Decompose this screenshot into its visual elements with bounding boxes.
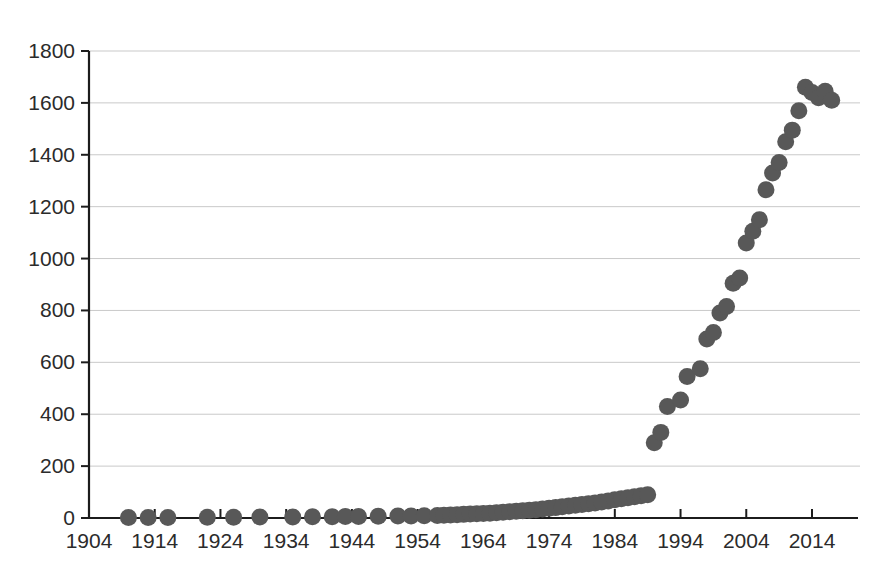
y-tick-label-1800: 1800	[28, 39, 75, 62]
y-tick-label-800: 800	[40, 298, 75, 321]
data-point	[370, 508, 387, 525]
x-tick-label-1924: 1924	[197, 529, 244, 552]
data-point	[823, 92, 840, 109]
data-point	[751, 211, 768, 228]
data-point	[705, 324, 722, 341]
data-point	[120, 509, 137, 526]
x-tick-label-2004: 2004	[723, 529, 770, 552]
x-tick-label-1944: 1944	[329, 529, 376, 552]
y-tick-label-1600: 1600	[28, 91, 75, 114]
data-point	[784, 122, 801, 139]
x-tick-label-1964: 1964	[460, 529, 507, 552]
gridlines	[89, 51, 860, 466]
x-tick-label-2014: 2014	[789, 529, 836, 552]
data-point	[159, 509, 176, 526]
scatter-chart: 020040060080010001200140016001800 190419…	[0, 0, 889, 587]
x-tick-label-1994: 1994	[657, 529, 704, 552]
data-point	[639, 486, 656, 503]
plot-area: 020040060080010001200140016001800 190419…	[0, 0, 889, 587]
data-point	[692, 360, 709, 377]
data-point	[731, 270, 748, 287]
y-axis	[81, 51, 89, 518]
data-point	[251, 508, 268, 525]
data-point	[225, 509, 242, 526]
data-point	[199, 509, 216, 526]
x-tick-label-1914: 1914	[131, 529, 178, 552]
data-point	[140, 509, 157, 526]
data-point	[284, 508, 301, 525]
y-tick-label-1000: 1000	[28, 247, 75, 270]
x-tick-labels: 1904191419241934194419541964197419841994…	[66, 529, 836, 552]
data-point	[771, 154, 788, 171]
y-tick-label-600: 600	[40, 350, 75, 373]
data-point	[304, 508, 321, 525]
data-point	[718, 298, 735, 315]
y-tick-label-0: 0	[63, 506, 75, 529]
x-tick-label-1934: 1934	[263, 529, 310, 552]
y-tick-labels: 020040060080010001200140016001800	[28, 39, 75, 529]
data-point	[672, 391, 689, 408]
x-tick-label-1984: 1984	[591, 529, 638, 552]
x-tick-label-1904: 1904	[66, 529, 113, 552]
y-tick-label-400: 400	[40, 402, 75, 425]
data-point	[350, 508, 367, 525]
data-markers	[120, 79, 840, 526]
data-point	[757, 181, 774, 198]
y-tick-label-1400: 1400	[28, 143, 75, 166]
y-tick-label-1200: 1200	[28, 195, 75, 218]
data-point	[790, 102, 807, 119]
x-tick-label-1954: 1954	[394, 529, 441, 552]
x-tick-label-1974: 1974	[526, 529, 573, 552]
data-point	[652, 424, 669, 441]
y-tick-label-200: 200	[40, 454, 75, 477]
